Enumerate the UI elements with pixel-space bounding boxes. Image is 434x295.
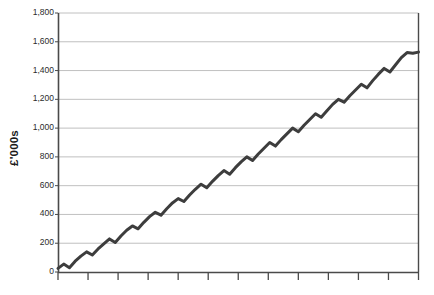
data-line-series-1 [58,52,419,268]
chart-plot [0,0,434,295]
gridlines [55,13,419,272]
chart-container: £'000s 02004006008001,0001,2001,4001,600… [0,0,434,295]
